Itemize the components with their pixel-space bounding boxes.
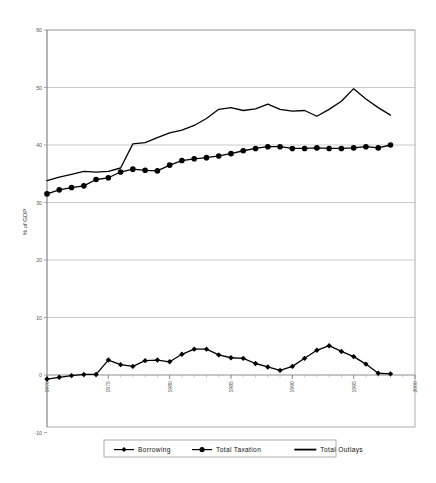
data-point-marker <box>228 151 234 157</box>
chart-legend: BorrowingTotal TaxationTotal Outlays <box>104 440 363 457</box>
y-tick-label: 0 <box>39 372 42 378</box>
x-tick-label: 1985 <box>228 381 234 393</box>
data-point-marker <box>69 185 75 191</box>
data-point-marker <box>363 144 369 150</box>
data-point-marker <box>118 169 124 175</box>
data-point-marker <box>339 146 345 152</box>
x-tick-label: 1980 <box>167 381 173 393</box>
data-point-marker <box>93 177 99 183</box>
legend-label: Borrowing <box>138 446 171 454</box>
line-chart: 6050403020100-10 19701975198019851990199… <box>0 0 436 483</box>
data-point-marker <box>130 166 136 172</box>
data-point-marker <box>265 144 271 150</box>
data-point-marker <box>253 146 259 152</box>
x-tick-label: 1970 <box>44 381 50 393</box>
x-tick-label: 1990 <box>289 381 295 393</box>
data-point-marker <box>56 187 62 193</box>
data-point-marker <box>240 148 246 154</box>
y-tick-label: 20 <box>36 257 42 263</box>
data-point-marker <box>314 145 320 151</box>
data-point-marker <box>167 162 173 168</box>
y-axis-ticks: 6050403020100-10 <box>35 27 48 436</box>
data-point-marker <box>179 158 185 164</box>
data-point-marker <box>302 146 308 152</box>
data-point-marker <box>326 146 332 152</box>
x-tick-label: 2000 <box>412 381 418 393</box>
data-point-marker <box>375 145 381 151</box>
chart-container: 6050403020100-10 19701975198019851990199… <box>0 0 436 483</box>
legend-label: Total Taxation <box>216 446 261 453</box>
data-point-marker <box>351 145 357 151</box>
y-tick-label: 10 <box>36 315 42 321</box>
y-tick-label: 50 <box>36 85 42 91</box>
data-point-marker <box>204 155 210 161</box>
data-point-marker <box>106 175 112 181</box>
data-point-marker <box>142 168 148 174</box>
data-point-marker <box>155 168 161 174</box>
legend-label: Total Outlays <box>320 446 363 454</box>
data-point-marker <box>216 153 222 159</box>
y-tick-label: 30 <box>36 200 42 206</box>
data-point-marker <box>191 156 197 162</box>
data-point-marker <box>277 144 283 150</box>
y-tick-label: -10 <box>35 430 43 436</box>
x-tick-label: 1995 <box>351 381 357 393</box>
y-axis-title: % of GDP <box>22 209 28 236</box>
data-point-marker <box>290 146 296 152</box>
x-tick-label: 1975 <box>105 381 111 393</box>
data-point-marker <box>81 183 87 189</box>
y-tick-label: 60 <box>36 27 42 33</box>
data-point-marker <box>388 142 394 148</box>
legend-swatch-marker <box>199 447 204 452</box>
data-point-marker <box>44 191 50 197</box>
y-tick-label: 40 <box>36 142 42 148</box>
